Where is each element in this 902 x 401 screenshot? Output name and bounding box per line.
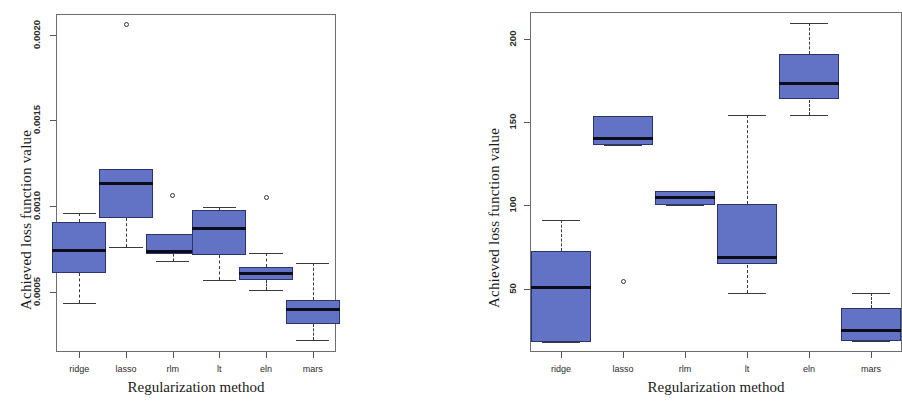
whisker-cap-upper	[63, 213, 96, 214]
median-line-eln	[779, 82, 839, 85]
whisker-lower	[313, 324, 314, 339]
left-boxplot-panel: Achieved loss function value Regularizat…	[0, 0, 450, 401]
whisker-upper	[561, 220, 562, 252]
whisker-upper	[266, 253, 267, 267]
whisker-cap-upper	[852, 293, 889, 294]
x-tick-label-ridge: ridge	[531, 364, 591, 374]
right-x-axis-title: Regularization method	[530, 379, 902, 396]
whisker-cap-lower	[666, 205, 703, 206]
y-tick-mark	[524, 289, 530, 290]
whisker-upper	[809, 23, 810, 54]
whisker-cap-lower	[296, 340, 329, 341]
y-tick-label: 0.0020	[31, 11, 42, 57]
x-tick-label-mars: mars	[283, 364, 343, 374]
y-tick-mark	[524, 39, 530, 40]
whisker-lower	[173, 254, 174, 261]
y-tick-label: 150	[507, 99, 518, 145]
x-tick-mark	[313, 352, 314, 358]
whisker-lower	[79, 273, 80, 303]
whisker-lower	[266, 280, 267, 290]
x-tick-mark	[623, 352, 624, 358]
whisker-cap-lower	[728, 293, 765, 294]
whisker-cap-lower	[109, 247, 142, 248]
whisker-cap-lower	[63, 303, 96, 304]
x-tick-mark	[685, 352, 686, 358]
whisker-cap-lower	[790, 115, 827, 116]
whisker-cap-lower	[852, 341, 889, 342]
median-line-ridge	[531, 286, 591, 289]
whisker-cap-upper	[203, 207, 236, 208]
whisker-cap-lower	[203, 280, 236, 281]
box-mars	[286, 300, 340, 324]
median-line-mars	[841, 329, 901, 332]
box-lasso	[99, 169, 153, 218]
whisker-upper	[79, 213, 80, 222]
median-line-lt	[192, 227, 246, 230]
y-tick-mark	[50, 206, 56, 207]
box-lasso	[593, 116, 653, 145]
y-tick-label: 0.0015	[31, 97, 42, 143]
whisker-upper	[747, 115, 748, 203]
y-tick-label: 0.0010	[31, 183, 42, 229]
outlier-point-lasso	[621, 279, 626, 284]
y-tick-mark	[50, 35, 56, 36]
median-line-eln	[239, 272, 293, 275]
x-tick-mark	[173, 352, 174, 358]
y-tick-label: 200	[507, 15, 518, 61]
whisker-upper	[871, 293, 872, 308]
whisker-cap-upper	[296, 263, 329, 264]
x-tick-mark	[561, 352, 562, 358]
whisker-lower	[809, 100, 810, 115]
x-tick-label-eln: eln	[779, 364, 839, 374]
x-tick-mark	[809, 352, 810, 358]
right-y-axis-title: Achieved loss function value	[486, 128, 503, 308]
median-line-lasso	[99, 182, 153, 185]
whisker-lower	[219, 255, 220, 280]
whisker-cap-upper	[542, 220, 579, 221]
median-line-rlm	[655, 196, 715, 199]
box-ridge	[531, 251, 591, 342]
whisker-lower	[747, 265, 748, 293]
median-line-mars	[286, 308, 340, 311]
y-tick-label: 50	[507, 265, 518, 311]
box-eln	[779, 54, 839, 100]
whisker-cap-lower	[249, 290, 282, 291]
x-tick-mark	[79, 352, 80, 358]
y-tick-label: 0.0005	[31, 268, 42, 314]
median-line-ridge	[52, 249, 106, 252]
left-x-axis-title: Regularization method	[56, 379, 336, 396]
x-tick-mark	[126, 352, 127, 358]
x-tick-mark	[747, 352, 748, 358]
median-line-lasso	[593, 137, 653, 140]
x-tick-mark	[219, 352, 220, 358]
whisker-cap-lower	[156, 261, 189, 262]
x-tick-mark	[266, 352, 267, 358]
y-tick-label: 100	[507, 182, 518, 228]
whisker-cap-upper	[790, 23, 827, 24]
x-tick-label-lasso: lasso	[593, 364, 653, 374]
right-boxplot-panel: Achieved loss function value Regularizat…	[450, 0, 897, 401]
x-tick-label-mars: mars	[841, 364, 901, 374]
whisker-cap-lower	[604, 145, 641, 146]
y-tick-mark	[50, 120, 56, 121]
outlier-point-rlm	[170, 193, 175, 198]
outlier-point-lasso	[124, 22, 129, 27]
x-tick-mark	[871, 352, 872, 358]
whisker-cap-lower	[542, 342, 579, 343]
whisker-cap-upper	[249, 253, 282, 254]
whisker-lower	[126, 218, 127, 247]
y-tick-mark	[50, 292, 56, 293]
x-tick-label-lt: lt	[717, 364, 777, 374]
whisker-cap-upper	[728, 115, 765, 116]
median-line-lt	[717, 256, 777, 259]
whisker-upper	[313, 263, 314, 300]
box-lt	[192, 210, 246, 255]
box-ridge	[52, 222, 106, 273]
x-tick-label-rlm: rlm	[655, 364, 715, 374]
y-tick-mark	[524, 122, 530, 123]
box-mars	[841, 308, 901, 341]
y-tick-mark	[524, 205, 530, 206]
